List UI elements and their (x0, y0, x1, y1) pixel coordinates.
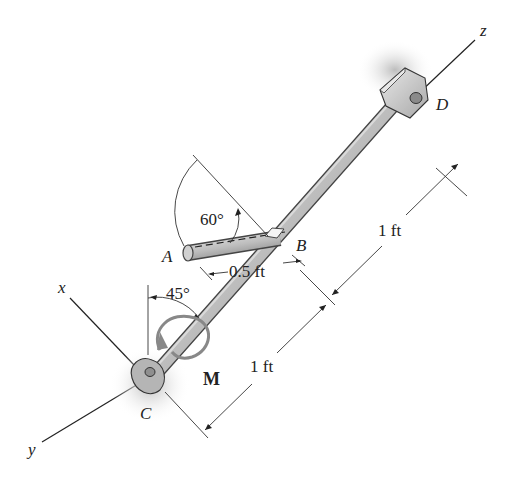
dimension-cb (165, 305, 326, 438)
point-a-label: A (161, 247, 173, 266)
x-axis-label: x (57, 278, 66, 297)
point-b-label: B (296, 236, 307, 255)
point-c-label: C (140, 404, 152, 423)
point-d-label: D (435, 95, 449, 114)
z-axis-label: z (479, 21, 487, 40)
rod-assembly-diagram: z y x C D A B (0, 0, 506, 489)
dimension-cb-label: 1 ft (250, 357, 273, 376)
angle-60-annotation (175, 155, 268, 246)
arm-rod-ab (183, 228, 285, 261)
moment-m-label-visible: M (203, 369, 220, 389)
y-axis-label: y (26, 440, 36, 459)
dimension-bd-label: 1 ft (378, 221, 401, 240)
dimension-ab-label: 0.5 ft (229, 262, 265, 281)
angle-45-label: 45° (166, 284, 190, 303)
angle-60-label: 60° (200, 210, 224, 229)
